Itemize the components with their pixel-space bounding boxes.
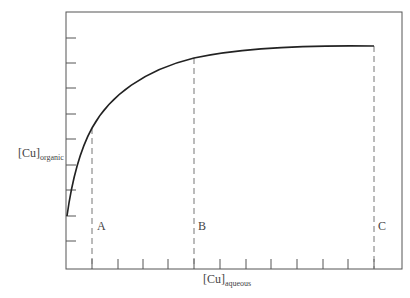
x-axis-ticks (92, 259, 374, 269)
x-axis-label: [Cu]aqueous (203, 272, 251, 288)
plot-frame (66, 12, 402, 269)
isotherm-curve (67, 46, 374, 216)
guide-lines (92, 46, 374, 269)
marker-label-a: A (97, 219, 106, 234)
marker-label-b: B (198, 219, 206, 234)
marker-label-c: C (378, 219, 386, 234)
y-axis-label: [Cu]organic (18, 146, 64, 162)
